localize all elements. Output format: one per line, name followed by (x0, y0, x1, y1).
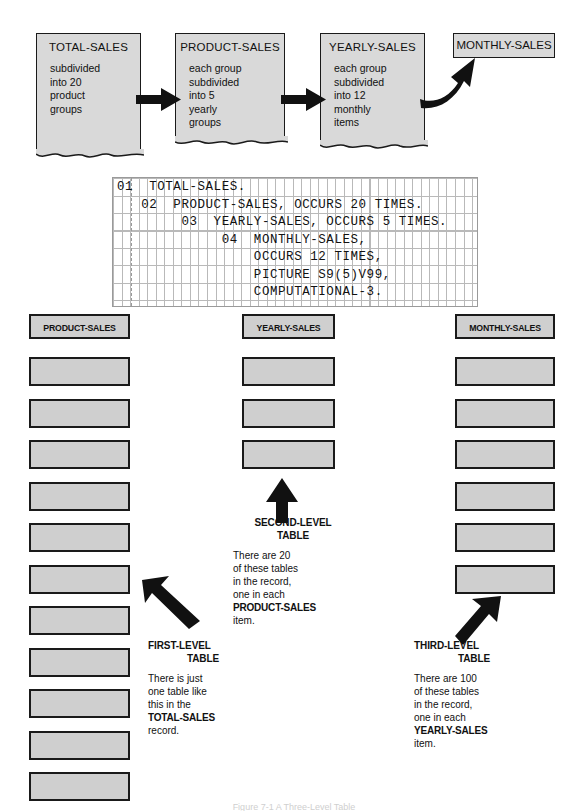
caption-line: in the record, (233, 575, 353, 588)
caption-line: one table like (148, 685, 258, 698)
table-cell (29, 772, 130, 801)
torn-edge-icon (320, 140, 428, 153)
table-cell (29, 606, 130, 635)
table-cell (29, 357, 130, 386)
table-cell (455, 523, 555, 552)
table-cell (29, 689, 130, 718)
caption-line: this in the (148, 698, 258, 711)
table-cell (455, 357, 555, 386)
torn-edge-icon (36, 149, 144, 162)
caption-title-line2: TABLE (148, 653, 258, 666)
caption-body: There is just one table like this in the… (148, 672, 258, 737)
table-cell (455, 399, 555, 428)
flow-card-yearly-sales: YEARLY-SALES each group subdivided into … (320, 33, 425, 142)
table-cell (242, 357, 335, 386)
table-header-label: YEARLY-SALES (248, 316, 330, 333)
flow-card-title: PRODUCT-SALES (176, 41, 284, 53)
table-cell (29, 399, 130, 428)
table-header-label: MONTHLY-SALES (461, 316, 549, 333)
flow-card-line: groups (189, 116, 242, 130)
flow-arrow-3-icon (418, 55, 478, 113)
flow-card-line: groups (50, 103, 100, 117)
flow-card-line: into 12 (334, 89, 387, 103)
flow-card-line: product (50, 89, 100, 103)
caption-line: one in each (414, 711, 534, 724)
flow-card-title: TOTAL-SALES (37, 41, 140, 53)
flow-arrow-1-icon (136, 86, 182, 114)
caption-title: FIRST-LEVEL TABLE (148, 640, 258, 665)
first-level-arrow-icon (142, 576, 202, 630)
table-header-monthly-sales: MONTHLY-SALES (455, 314, 555, 339)
caption-line: There is just (148, 672, 258, 685)
caption-title-line2: TABLE (414, 653, 534, 666)
caption-line: item. (233, 614, 353, 627)
caption-line: There are 20 (233, 549, 353, 562)
figure-caption: Figure 7-1 A Three-Level Table (0, 802, 588, 811)
caption-line: in the record, (414, 698, 534, 711)
table-cell (29, 731, 130, 760)
table-cell (455, 440, 555, 469)
table-cell (455, 565, 555, 594)
cobol-code-listing: 01 TOTAL-SALES. 02 PRODUCT-SALES, OCCURS… (112, 177, 478, 307)
caption-line: item. (414, 737, 534, 750)
flow-card-total-sales: TOTAL-SALES subdivided into 20 product g… (36, 33, 141, 151)
flow-arrow-2-icon (281, 86, 327, 114)
flow-card-title: YEARLY-SALES (321, 41, 424, 53)
table-header-product-sales: PRODUCT-SALES (29, 314, 130, 339)
flow-card-body: each group subdivided into 12 monthly it… (334, 62, 387, 130)
flow-card-line: items (334, 116, 387, 130)
third-level-caption: THIRD-LEVEL TABLE There are 100 of these… (414, 640, 534, 750)
torn-edge-icon (175, 136, 288, 149)
caption-title-line1: THIRD-LEVEL (414, 640, 479, 651)
caption-line: one in each (233, 588, 353, 601)
flow-card-body: each group subdivided into 5 yearly grou… (189, 62, 242, 130)
caption-line: There are 100 (414, 672, 534, 685)
flow-card-line: into 5 (189, 89, 242, 103)
table-cell (29, 482, 130, 511)
caption-title-line1: SECOND-LEVEL (254, 517, 331, 528)
flow-card-line: each group (334, 62, 387, 76)
third-level-arrow-icon (455, 596, 503, 646)
caption-line: record. (148, 724, 258, 737)
flow-label-text: MONTHLY-SALES (454, 34, 554, 51)
table-header-yearly-sales: YEARLY-SALES (242, 314, 335, 339)
flow-card-product-sales: PRODUCT-SALES each group subdivided into… (175, 33, 285, 138)
caption-line: of these tables (414, 685, 534, 698)
flow-card-line: subdivided (334, 76, 387, 90)
figure-canvas: TOTAL-SALES subdivided into 20 product g… (0, 0, 588, 811)
caption-line: of these tables (233, 562, 353, 575)
flow-card-line: monthly (334, 103, 387, 117)
caption-body: There are 20 of these tables in the reco… (233, 549, 353, 627)
table-cell (29, 565, 130, 594)
cobol-code-text: 01 TOTAL-SALES. 02 PRODUCT-SALES, OCCURS… (117, 179, 447, 302)
flow-card-line: each group (189, 62, 242, 76)
caption-line: TOTAL-SALES (148, 712, 215, 723)
caption-body: There are 100 of these tables in the rec… (414, 672, 534, 750)
table-cell (29, 440, 130, 469)
table-cell (455, 482, 555, 511)
table-header-label: PRODUCT-SALES (35, 316, 124, 333)
second-level-caption: SECOND-LEVEL TABLE There are 20 of these… (233, 517, 353, 627)
caption-title-line2: TABLE (233, 530, 353, 543)
flow-card-line: subdivided (189, 76, 242, 90)
caption-title-line1: FIRST-LEVEL (148, 640, 211, 651)
flow-card-line: yearly (189, 103, 242, 117)
flow-card-line: into 20 (50, 76, 100, 90)
flow-card-body: subdivided into 20 product groups (50, 62, 100, 116)
caption-title: SECOND-LEVEL TABLE (233, 517, 353, 542)
caption-line: YEARLY-SALES (414, 725, 487, 736)
table-cell (29, 648, 130, 677)
caption-line: PRODUCT-SALES (233, 602, 316, 613)
table-cell (242, 399, 335, 428)
table-cell (242, 440, 335, 469)
flow-card-line: subdivided (50, 62, 100, 76)
caption-title: THIRD-LEVEL TABLE (414, 640, 534, 665)
table-cell (29, 523, 130, 552)
first-level-caption: FIRST-LEVEL TABLE There is just one tabl… (148, 640, 258, 737)
